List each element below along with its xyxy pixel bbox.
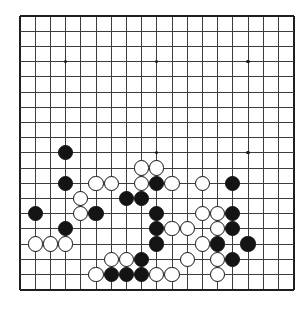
black-stone[interactable] [149, 236, 164, 251]
white-stone[interactable] [104, 252, 119, 267]
black-stone[interactable] [210, 236, 225, 251]
white-stone[interactable] [180, 221, 195, 236]
black-stone[interactable] [58, 221, 73, 236]
black-stone[interactable] [134, 191, 149, 206]
white-stone[interactable] [210, 206, 225, 221]
black-stone[interactable] [104, 267, 119, 282]
black-stone[interactable] [149, 176, 164, 191]
black-stone[interactable] [134, 252, 149, 267]
white-stone[interactable] [104, 176, 119, 191]
white-stone[interactable] [73, 191, 88, 206]
white-stone[interactable] [73, 206, 88, 221]
black-stone[interactable] [225, 206, 240, 221]
grid-line-horizontal [20, 259, 294, 260]
grid-line-horizontal [20, 198, 294, 199]
grid-line-horizontal [20, 107, 294, 108]
white-stone[interactable] [88, 267, 103, 282]
grid-line-horizontal [20, 76, 294, 77]
white-stone[interactable] [164, 176, 179, 191]
hoshi-point [64, 60, 67, 63]
grid-line-horizontal [20, 15, 294, 17]
black-stone[interactable] [28, 206, 43, 221]
white-stone[interactable] [195, 236, 210, 251]
white-stone[interactable] [149, 267, 164, 282]
white-stone[interactable] [28, 236, 43, 251]
grid-line-horizontal [20, 289, 294, 291]
white-stone[interactable] [134, 176, 149, 191]
hoshi-point [246, 151, 249, 154]
grid-line-horizontal [20, 46, 294, 47]
white-stone[interactable] [88, 176, 103, 191]
white-stone[interactable] [210, 252, 225, 267]
black-stone[interactable] [149, 206, 164, 221]
black-stone[interactable] [225, 221, 240, 236]
black-stone[interactable] [134, 267, 149, 282]
white-stone[interactable] [210, 267, 225, 282]
white-stone[interactable] [43, 236, 58, 251]
white-stone[interactable] [180, 252, 195, 267]
hoshi-point [155, 151, 158, 154]
black-stone[interactable] [225, 252, 240, 267]
black-stone[interactable] [149, 221, 164, 236]
black-stone[interactable] [58, 145, 73, 160]
black-stone[interactable] [58, 176, 73, 191]
white-stone[interactable] [119, 252, 134, 267]
white-stone[interactable] [210, 221, 225, 236]
go-board-page [0, 0, 305, 312]
go-board-container[interactable] [0, 0, 305, 312]
white-stone[interactable] [134, 160, 149, 175]
white-stone[interactable] [195, 176, 210, 191]
grid-line-horizontal [20, 122, 294, 123]
goban-grid[interactable] [0, 0, 305, 312]
black-stone[interactable] [119, 191, 134, 206]
grid-line-horizontal [20, 137, 294, 138]
white-stone[interactable] [164, 267, 179, 282]
hoshi-point [246, 60, 249, 63]
black-stone[interactable] [119, 267, 134, 282]
white-stone[interactable] [164, 221, 179, 236]
white-stone[interactable] [58, 236, 73, 251]
hoshi-point [155, 60, 158, 63]
black-stone[interactable] [225, 176, 240, 191]
grid-line-horizontal [20, 31, 294, 32]
black-stone[interactable] [88, 206, 103, 221]
white-stone[interactable] [149, 160, 164, 175]
white-stone[interactable] [195, 206, 210, 221]
black-stone[interactable] [240, 236, 255, 251]
grid-line-horizontal [20, 92, 294, 93]
